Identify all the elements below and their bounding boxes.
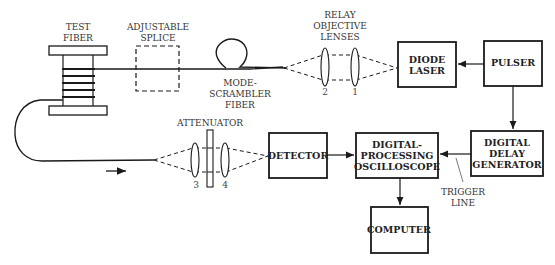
trigger-label-2: LINE [451, 198, 475, 208]
fiber-test-diagram: TEST FIBER ADJUSTABLE SPLICE MODE- SCRAM… [0, 0, 555, 265]
svg-text:MODE-: MODE- [223, 78, 257, 88]
pulser-label: PULSER [491, 57, 535, 68]
fiber-return [15, 100, 154, 161]
mode-scrambler-loop [216, 39, 285, 68]
lens-3 [191, 143, 199, 177]
svg-text:LINE: LINE [451, 198, 475, 208]
svg-text:DIODE: DIODE [409, 54, 445, 65]
svg-text:OBJECTIVE: OBJECTIVE [313, 21, 367, 31]
relay-beam [284, 55, 397, 80]
lens-3-number: 3 [193, 180, 199, 190]
splice-label-1: ADJUSTABLE [126, 22, 189, 32]
svg-text:LASER: LASER [409, 65, 445, 76]
test-fiber-spool [49, 46, 107, 115]
lens-4-number: 4 [222, 180, 228, 190]
attenuator-plate [207, 130, 213, 187]
svg-text:DELAY: DELAY [489, 148, 525, 159]
mode-scrambler-label-2: SCRAMBLER [209, 89, 271, 99]
osc-label-3: OSCILLOSCOPE [354, 161, 440, 172]
test-fiber-label-1: TEST [66, 22, 91, 32]
computer-label: COMPUTER [367, 224, 431, 235]
svg-text:TEST: TEST [66, 22, 91, 32]
trigger-pointer [456, 158, 463, 182]
diode-label-1: DIODE [409, 54, 445, 65]
trigger-label-1: TRIGGER [441, 187, 485, 197]
lens-1-number: 1 [352, 87, 358, 97]
delay-label-1: DIGITAL [484, 137, 530, 148]
svg-text:SPLICE: SPLICE [140, 33, 175, 43]
relay-label-3: LENSES [320, 32, 359, 42]
diode-label-2: LASER [409, 65, 445, 76]
svg-text:DIGITAL: DIGITAL [484, 137, 530, 148]
svg-text:GENERATOR: GENERATOR [472, 159, 541, 170]
lens-2-number: 2 [322, 87, 328, 97]
lens-2 [321, 48, 329, 86]
attenuator-label: ATTENUATOR [176, 118, 243, 128]
lens-1 [351, 48, 359, 86]
lens-4 [221, 143, 229, 177]
osc-label-2: PROCESSING [361, 150, 434, 161]
svg-text:FIBER: FIBER [225, 100, 255, 110]
splice-label-2: SPLICE [140, 33, 175, 43]
svg-text:RELAY: RELAY [324, 10, 356, 20]
delay-label-2: DELAY [489, 148, 525, 159]
svg-text:TRIGGER: TRIGGER [441, 187, 485, 197]
delay-label-3: GENERATOR [472, 159, 541, 170]
svg-text:PROCESSING: PROCESSING [361, 150, 434, 161]
relay-label-1: RELAY [324, 10, 356, 20]
mode-scrambler-label-3: FIBER [225, 100, 255, 110]
svg-text:DIGITAL-: DIGITAL- [372, 139, 422, 150]
relay-label-2: OBJECTIVE [313, 21, 367, 31]
osc-label-1: DIGITAL- [372, 139, 422, 150]
mode-scrambler-label-1: MODE- [223, 78, 257, 88]
svg-text:OSCILLOSCOPE: OSCILLOSCOPE [354, 161, 440, 172]
detector-label: DETECTOR [268, 150, 329, 161]
svg-text:ADJUSTABLE: ADJUSTABLE [126, 22, 189, 32]
svg-text:FIBER: FIBER [63, 33, 93, 43]
svg-text:LENSES: LENSES [320, 32, 359, 42]
svg-text:SCRAMBLER: SCRAMBLER [209, 89, 271, 99]
test-fiber-label-2: FIBER [63, 33, 93, 43]
